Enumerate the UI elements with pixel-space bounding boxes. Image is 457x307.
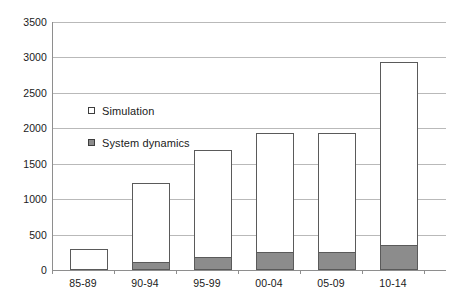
x-label-10-14: 10-14	[363, 277, 423, 289]
legend-label-simulation: Simulation	[102, 105, 154, 117]
y-tick-1000: 1000	[3, 194, 47, 204]
bar-segment-simulation[interactable]	[70, 249, 108, 270]
y-tick-3500: 3500	[3, 17, 47, 27]
x-label-00-04: 00-04	[239, 277, 299, 289]
x-tick-mark	[52, 270, 53, 274]
x-tick-mark	[238, 270, 239, 274]
y-axis-tick-labels: 3500 3000 2500 2000 1500 1000 500 0	[0, 0, 47, 307]
y-tick-3000: 3000	[3, 52, 47, 62]
x-tick-mark	[424, 270, 425, 274]
bar-segment-system-dynamics[interactable]	[194, 257, 232, 270]
y-tick-0: 0	[3, 265, 47, 275]
chart-legend: Simulation System dynamics	[88, 102, 190, 166]
bar-segment-system-dynamics[interactable]	[256, 252, 294, 270]
x-label-85-89: 85-89	[53, 277, 113, 289]
stacked-bar-chart: 3500 3000 2500 2000 1500 1000 500 0 85-8…	[0, 0, 457, 307]
legend-swatch-filled-square-icon	[88, 139, 95, 146]
x-label-05-09: 05-09	[301, 277, 361, 289]
x-tick-mark	[300, 270, 301, 274]
bar-segment-system-dynamics[interactable]	[380, 245, 418, 270]
x-tick-mark	[362, 270, 363, 274]
bar-segment-simulation[interactable]	[256, 133, 294, 253]
bar-segment-simulation[interactable]	[132, 183, 170, 263]
legend-swatch-empty-square-icon	[88, 107, 95, 114]
x-tick-mark	[176, 270, 177, 274]
bar-segment-simulation[interactable]	[318, 133, 356, 253]
bar-segment-system-dynamics[interactable]	[132, 262, 170, 270]
x-tick-mark	[114, 270, 115, 274]
legend-item-simulation[interactable]: Simulation	[88, 102, 190, 119]
y-tick-2000: 2000	[3, 123, 47, 133]
x-label-90-94: 90-94	[115, 277, 175, 289]
x-axis-line	[52, 270, 446, 271]
bar-segment-system-dynamics[interactable]	[318, 252, 356, 270]
y-tick-1500: 1500	[3, 159, 47, 169]
y-axis-line	[52, 22, 53, 271]
x-label-95-99: 95-99	[177, 277, 237, 289]
bar-segment-simulation[interactable]	[380, 62, 418, 246]
bar-segment-simulation[interactable]	[194, 150, 232, 258]
legend-label-system-dynamics: System dynamics	[102, 137, 190, 149]
legend-item-system-dynamics[interactable]: System dynamics	[88, 134, 190, 151]
y-tick-500: 500	[3, 230, 47, 240]
y-tick-2500: 2500	[3, 88, 47, 98]
